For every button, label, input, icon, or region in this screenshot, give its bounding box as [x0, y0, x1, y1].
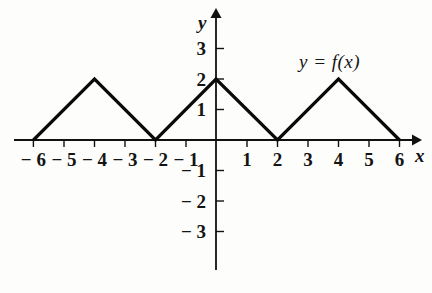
y-axis-label: y [198, 13, 206, 32]
y-tick-label-1: 1 [178, 100, 206, 119]
function-annotation-label: y = f(x) [299, 52, 360, 71]
x-tick-label-6: 6 [385, 150, 415, 169]
y-tick-label-3: 3 [178, 39, 206, 58]
x-tick-label-1: 1 [232, 150, 262, 169]
y-tick-label-minus-3: − 3 [168, 222, 206, 241]
y-tick-label-minus-1: − 1 [168, 161, 206, 180]
y-tick-label-2: 2 [178, 70, 206, 89]
y-axis-arrow-icon [211, 8, 222, 18]
x-tick-label-5: 5 [354, 150, 384, 169]
x-axis-label: x [415, 146, 425, 165]
x-tick-label-4: 4 [324, 150, 354, 169]
y-tick-label-minus-2: − 2 [168, 192, 206, 211]
coordinate-plot [0, 0, 432, 293]
x-axis-arrow-icon [412, 135, 422, 146]
graph-figure: − 6 − 5 − 4 − 3 − 2 − 1 1 2 3 4 5 6 3 2 … [0, 0, 432, 293]
x-tick-label-3: 3 [293, 150, 323, 169]
x-tick-label-2: 2 [263, 150, 293, 169]
